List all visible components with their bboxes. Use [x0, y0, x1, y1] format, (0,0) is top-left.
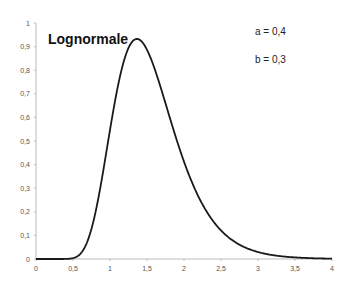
- tick-labels: 00,511,522,533,5400,10,20,30,40,50,60,70…: [20, 20, 334, 273]
- lognormal-chart: 00,511,522,533,5400,10,20,30,40,50,60,70…: [0, 0, 350, 288]
- y-tick-label: 0,5: [20, 138, 30, 145]
- chart-title: Lognormale: [48, 31, 128, 47]
- y-tick-label: 0,4: [20, 161, 30, 168]
- y-tick-label: 0,7: [20, 90, 30, 97]
- y-tick-label: 0,8: [20, 67, 30, 74]
- x-tick-label: 0: [34, 265, 38, 272]
- y-tick-label: 0,2: [20, 208, 30, 215]
- x-tick-label: 1: [108, 265, 112, 272]
- x-tick-label: 3: [256, 265, 260, 272]
- x-tick-label: 3,5: [290, 265, 300, 272]
- y-tick-label: 0: [26, 256, 30, 263]
- y-tick-label: 0,9: [20, 43, 30, 50]
- x-tick-label: 2,5: [216, 265, 226, 272]
- y-tick-label: 0,6: [20, 114, 30, 121]
- y-tick-label: 0,1: [20, 232, 30, 239]
- y-tick-label: 1: [26, 20, 30, 27]
- x-tick-label: 0,5: [68, 265, 78, 272]
- x-tick-label: 2: [182, 265, 186, 272]
- series-line-lognormal: [36, 39, 332, 259]
- x-tick-label: 1,5: [142, 265, 152, 272]
- axes: [34, 23, 332, 261]
- annotation-a: a = 0,4: [255, 26, 286, 37]
- x-tick-label: 4: [330, 265, 334, 272]
- annotation-b: b = 0,3: [255, 54, 286, 65]
- y-tick-label: 0,3: [20, 185, 30, 192]
